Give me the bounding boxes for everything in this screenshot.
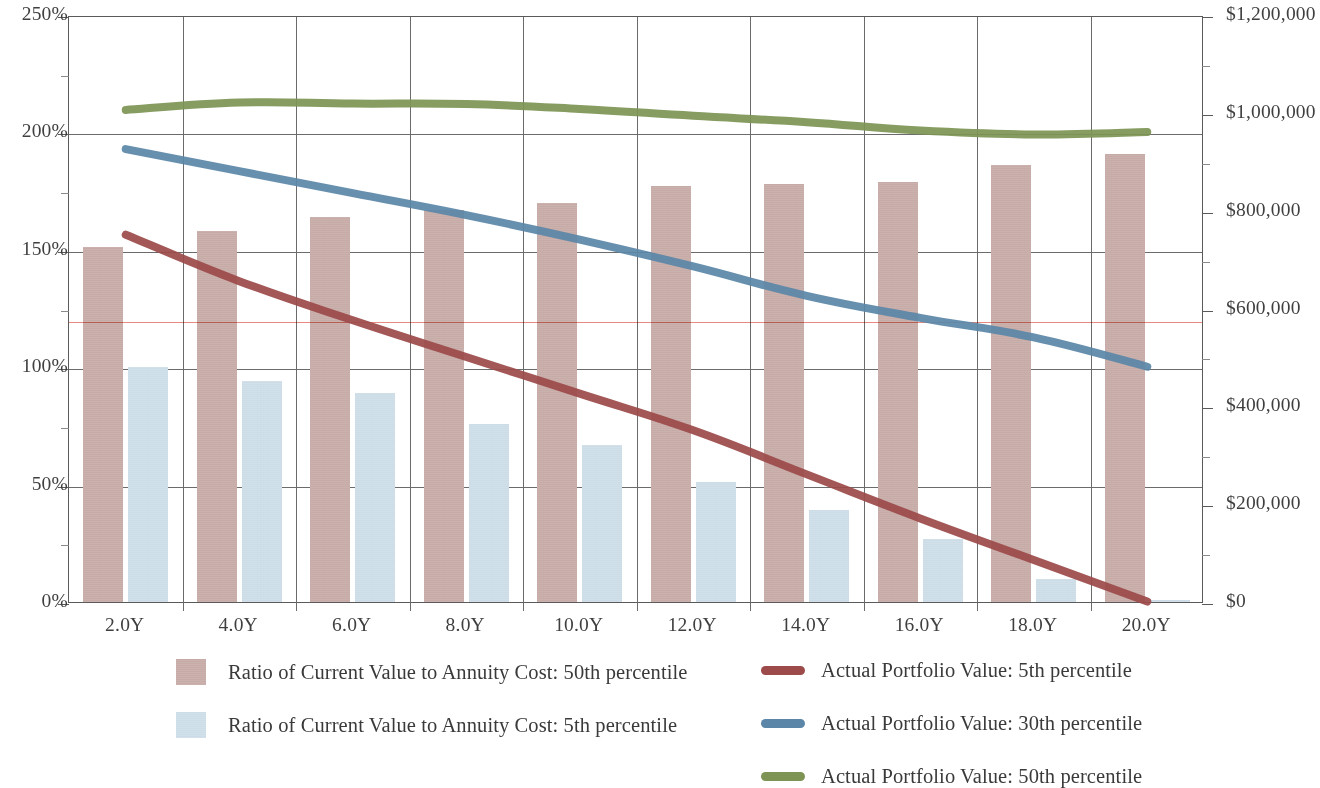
left-axis-minor-tick: [61, 76, 69, 77]
left-axis-minor-tick: [61, 428, 69, 429]
legend-item-label: Actual Portfolio Value: 30th percentile: [821, 712, 1142, 735]
x-axis-tick-label: 20.0Y: [1122, 614, 1171, 636]
left-axis-minor-tick: [61, 311, 69, 312]
right-axis-tick-label: $1,000,000: [1226, 101, 1316, 123]
x-axis-tick-label: 12.0Y: [668, 614, 717, 636]
x-axis-tick-label: 14.0Y: [781, 614, 830, 636]
right-axis-tick: [1202, 604, 1213, 605]
chart-legend: Ratio of Current Value to Annuity Cost: …: [0, 655, 1320, 787]
legend-item[interactable]: Actual Portfolio Value: 5th percentile: [761, 659, 1132, 682]
left-axis-tick-label: 100%: [22, 355, 68, 377]
right-axis-tick-label: $400,000: [1226, 394, 1301, 416]
x-axis-tick-label: 4.0Y: [219, 614, 258, 636]
left-axis-tick-label: 200%: [22, 120, 68, 142]
left-axis-tick-label: 0%: [42, 590, 68, 612]
plot-area: Actual Portfolio Value: 5th percentileAc…: [68, 16, 1203, 603]
legend-item-label: Ratio of Current Value to Annuity Cost: …: [228, 661, 687, 684]
left-axis-minor-tick: [61, 545, 69, 546]
left-axis-tick-label: 250%: [22, 3, 68, 25]
line-series-layer: Actual Portfolio Value: 5th percentileAc…: [69, 17, 1204, 604]
legend-color-swatch-icon: [176, 659, 206, 685]
left-axis-tick-label: 50%: [32, 473, 68, 495]
legend-color-swatch-icon: [176, 712, 206, 738]
x-axis-tick-label: 6.0Y: [332, 614, 371, 636]
legend-item[interactable]: Ratio of Current Value to Annuity Cost: …: [176, 712, 677, 738]
legend-item[interactable]: Actual Portfolio Value: 50th percentile: [761, 765, 1142, 788]
legend-item-label: Actual Portfolio Value: 50th percentile: [821, 765, 1142, 788]
x-axis-tick-label: 10.0Y: [554, 614, 603, 636]
line-series: Actual Portfolio Value: 50th percentile: [126, 102, 1148, 134]
right-axis-tick-label: $800,000: [1226, 199, 1301, 221]
legend-item[interactable]: Ratio of Current Value to Annuity Cost: …: [176, 659, 687, 685]
left-axis-tick-label: 150%: [22, 238, 68, 260]
x-axis-tick-label: 16.0Y: [895, 614, 944, 636]
right-axis-tick-label: $200,000: [1226, 492, 1301, 514]
line-series: Actual Portfolio Value: 30th percentile: [126, 149, 1148, 367]
right-axis-tick-label: $1,200,000: [1226, 3, 1316, 25]
left-axis-minor-tick: [61, 193, 69, 194]
legend-line-swatch-icon: [761, 772, 805, 781]
legend-line-swatch-icon: [761, 719, 805, 728]
x-axis-tick-label: 2.0Y: [105, 614, 144, 636]
right-axis-tick-label: $0: [1226, 590, 1246, 612]
line-series: Actual Portfolio Value: 5th percentile: [126, 235, 1148, 602]
x-axis-tick-label: 18.0Y: [1008, 614, 1057, 636]
legend-item-label: Actual Portfolio Value: 5th percentile: [821, 659, 1132, 682]
legend-item[interactable]: Actual Portfolio Value: 30th percentile: [761, 712, 1142, 735]
legend-item-label: Ratio of Current Value to Annuity Cost: …: [228, 714, 677, 737]
legend-line-swatch-icon: [761, 666, 805, 675]
x-axis-tick-label: 8.0Y: [446, 614, 485, 636]
right-axis-tick-label: $600,000: [1226, 297, 1301, 319]
